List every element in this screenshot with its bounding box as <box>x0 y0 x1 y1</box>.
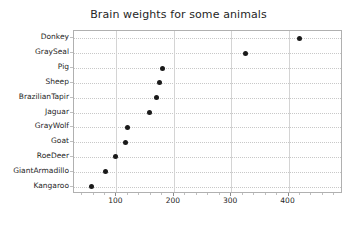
y-axis-label-goat: Goat <box>51 137 69 145</box>
x-axis-minor-tick <box>184 193 185 195</box>
y-axis-tick <box>70 82 73 83</box>
x-axis-minor-tick <box>310 193 311 195</box>
y-axis-tick <box>70 156 73 157</box>
x-axis-minor-tick <box>161 193 162 195</box>
x-axis-minor-tick <box>150 193 151 195</box>
y-axis-label-giantarmadillo: GiantArmadillo <box>13 167 69 175</box>
gridline-horizontal <box>74 172 341 173</box>
y-axis-label-braziliantapir: BrazilianTapir <box>19 93 69 101</box>
y-axis-tick <box>70 67 73 68</box>
gridline-horizontal <box>74 53 341 54</box>
gridline-horizontal <box>74 68 341 69</box>
x-axis-minor-tick <box>253 193 254 195</box>
gridline-horizontal <box>74 187 341 188</box>
x-axis-minor-tick <box>81 193 82 195</box>
data-point <box>243 51 248 56</box>
x-axis-tick <box>115 193 116 196</box>
data-point <box>103 169 108 174</box>
x-axis-minor-tick <box>138 193 139 195</box>
data-point <box>157 80 162 85</box>
gridline-horizontal <box>74 142 341 143</box>
x-axis-minor-tick <box>219 193 220 195</box>
y-axis-tick <box>70 171 73 172</box>
y-axis-label-jaguar: Jaguar <box>45 108 69 116</box>
chart-figure: Brain weights for some animals DonkeyGra… <box>0 0 357 225</box>
y-axis-tick <box>70 37 73 38</box>
gridline-vertical <box>174 31 175 192</box>
data-point <box>125 125 130 130</box>
x-axis-label-200: 200 <box>166 197 180 205</box>
data-point <box>89 184 94 189</box>
gridline-horizontal <box>74 98 341 99</box>
x-axis-minor-tick <box>242 193 243 195</box>
x-axis-tick <box>173 193 174 196</box>
x-axis-minor-tick <box>333 193 334 195</box>
x-axis-minor-tick <box>265 193 266 195</box>
x-axis-label-300: 300 <box>223 197 237 205</box>
y-axis-tick <box>70 112 73 113</box>
y-axis-label-sheep: Sheep <box>45 78 69 86</box>
x-axis-tick <box>230 193 231 196</box>
data-point <box>147 110 152 115</box>
x-axis-minor-tick <box>299 193 300 195</box>
gridline-vertical <box>231 31 232 192</box>
chart-title: Brain weights for some animals <box>0 8 357 21</box>
y-axis-label-pig: Pig <box>58 63 69 71</box>
x-axis-minor-tick <box>196 193 197 195</box>
y-axis-label-grayseal: GraySeal <box>35 48 69 56</box>
plot-area <box>73 30 342 193</box>
y-axis-tick <box>70 141 73 142</box>
y-axis-tick <box>70 186 73 187</box>
gridline-vertical <box>289 31 290 192</box>
y-axis-label-graywolf: GrayWolf <box>35 123 69 131</box>
x-axis-minor-tick <box>93 193 94 195</box>
data-point <box>297 36 302 41</box>
y-axis-tick <box>70 52 73 53</box>
gridline-horizontal <box>74 127 341 128</box>
x-axis-label-100: 100 <box>108 197 122 205</box>
y-axis-label-roedeer: RoeDeer <box>37 152 69 160</box>
data-point <box>154 95 159 100</box>
data-point <box>123 140 128 145</box>
x-axis-label-400: 400 <box>280 197 294 205</box>
y-axis-tick <box>70 97 73 98</box>
y-axis-label-kangaroo: Kangaroo <box>33 182 69 190</box>
x-axis-minor-tick <box>207 193 208 195</box>
x-axis-minor-tick <box>276 193 277 195</box>
x-axis-minor-tick <box>322 193 323 195</box>
data-point <box>160 66 165 71</box>
gridline-vertical <box>116 31 117 192</box>
gridline-horizontal <box>74 83 341 84</box>
y-axis-tick <box>70 126 73 127</box>
x-axis-minor-tick <box>127 193 128 195</box>
x-axis-minor-tick <box>104 193 105 195</box>
y-axis-label-donkey: Donkey <box>41 34 69 42</box>
x-axis-tick <box>288 193 289 196</box>
gridline-horizontal <box>74 113 341 114</box>
